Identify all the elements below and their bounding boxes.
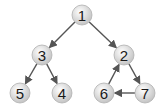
node-label: 7 [141, 85, 149, 102]
node-label: 4 [58, 85, 66, 102]
node-label: 3 [38, 47, 46, 64]
node-5: 5 [10, 83, 30, 103]
node-label: 6 [100, 85, 108, 102]
nodes: 1325467 [10, 5, 155, 103]
node-3: 3 [32, 45, 52, 65]
node-7: 7 [135, 83, 155, 103]
node-6: 6 [94, 83, 114, 103]
edge-1-to-3 [50, 22, 75, 47]
edge-3-to-4 [47, 64, 57, 83]
node-label: 1 [78, 7, 86, 24]
edge-6-to-2 [109, 65, 119, 84]
node-1: 1 [72, 5, 92, 25]
node-2: 2 [114, 45, 134, 65]
node-4: 4 [52, 83, 72, 103]
edge-2-to-7 [129, 64, 140, 84]
node-label: 2 [120, 47, 128, 64]
node-label: 5 [16, 85, 24, 102]
edge-3-to-5 [26, 64, 37, 84]
edge-1-to-2 [89, 22, 116, 48]
graph-canvas: 1325467 [0, 0, 162, 109]
